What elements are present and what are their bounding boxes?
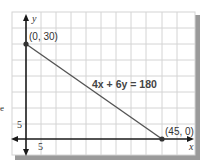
x-axis-label: x	[188, 141, 194, 152]
point-a-label: (0, 30)	[29, 31, 58, 42]
point-b-label: (45, 0)	[165, 126, 194, 137]
graph: y x (0, 30) (45, 0) 4x + 6y = 180 5 5	[0, 0, 205, 168]
point-intercept-y	[23, 41, 28, 46]
y-axis-label: y	[31, 13, 37, 24]
graph-shadow-bottom	[15, 155, 198, 160]
y-tick-label: 5	[17, 119, 22, 130]
equation-label: 4x + 6y = 180	[92, 78, 157, 90]
graph-shadow-right	[195, 15, 200, 160]
point-intercept-x	[159, 136, 164, 141]
x-tick-label: 5	[38, 141, 43, 152]
